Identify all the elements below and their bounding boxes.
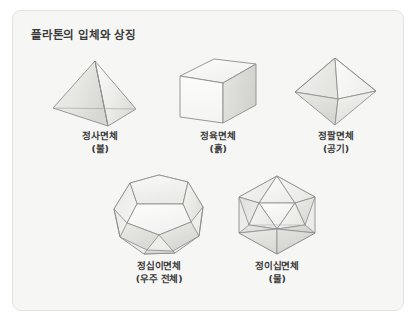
octahedron-caption: 정팔면체 (공기) [261,130,411,155]
cube-icon [170,55,266,127]
icosahedron-element: (물) [202,273,352,286]
dodecahedron-icon [111,173,207,257]
page-title: 플라톤의 입체와 상징 [31,26,136,42]
solids-grid: 정사면체 (불) [13,55,403,310]
tetrahedron-figure [52,55,148,127]
cube-figure [170,55,266,127]
icosahedron-caption: 정이십면체 (물) [202,260,352,285]
solid-item-icosahedron: 정이십면체 (물) [202,173,352,285]
octahedron-icon [288,55,384,127]
tetrahedron-icon [52,55,148,127]
solid-item-octahedron: 정팔면체 (공기) [261,55,411,155]
octahedron-element: (공기) [261,143,411,156]
page-root: 플라톤의 입체와 상징 [0,0,419,325]
title-divider [13,52,403,53]
icosahedron-icon [229,173,325,257]
dodecahedron-figure [111,173,207,257]
octahedron-figure [288,55,384,127]
platonic-solids-card: 플라톤의 입체와 상징 [12,10,404,311]
icosahedron-figure [229,173,325,257]
octahedron-name: 정팔면체 [261,130,411,143]
icosahedron-name: 정이십면체 [202,260,352,273]
